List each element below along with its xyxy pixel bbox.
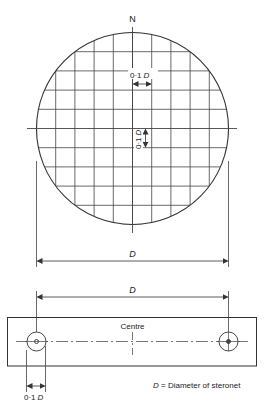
right-pivot-hole <box>217 332 240 351</box>
grid-spacing-label-horizontal: 0·1D <box>130 71 150 80</box>
north-label: N <box>129 14 136 24</box>
diameter-label-lower: D <box>129 285 136 295</box>
hole-offset-label: 0·1D <box>24 393 44 402</box>
diameter-label-upper: D <box>129 249 136 259</box>
legend-text: D = Diameter of steronet <box>153 381 241 390</box>
stereonet-diagram: N 0·1D 0·1D D D Centre 0·1D <box>0 0 271 416</box>
grid-spacing-label-vertical: 0·1D <box>134 129 143 149</box>
centre-label: Centre <box>120 322 145 331</box>
left-pivot-hole <box>25 332 48 351</box>
